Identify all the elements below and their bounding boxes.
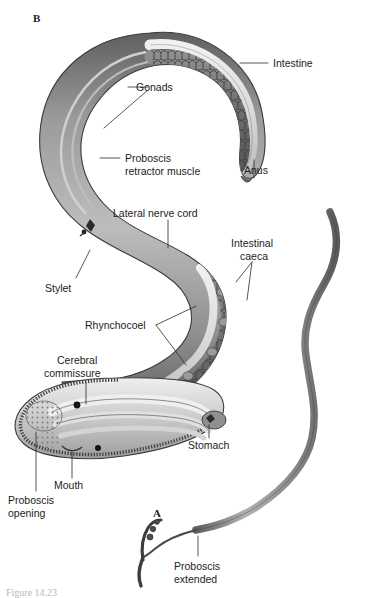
label-intestine: Intestine [273,57,313,69]
label-anus: Anus [244,164,268,176]
label-gonads: Gonads [136,81,173,93]
panel-b-worm-body [15,32,336,586]
label-mouth: Mouth [54,479,83,491]
panel-letter-b: B [33,12,41,24]
label-proboscis-extended-line2: extended [174,573,217,585]
label-lateral-nerve-cord: Lateral nerve cord [113,207,198,219]
figure-caption: Figure 14.23 [6,587,57,598]
label-intestinal-caeca-line2: caeca [240,250,268,262]
figure-container: B A Intestine Gonads Anus Proboscis retr… [0,0,366,598]
leader-intestinal-caeca [236,262,252,300]
label-proboscis-retractor-muscle-line1: Proboscis [125,152,171,164]
label-cerebral-commissure-line2: commissure [44,367,101,379]
leader-gonads [104,87,148,128]
label-stomach: Stomach [188,439,230,451]
label-stylet: Stylet [45,282,71,294]
label-proboscis-retractor-muscle-line2: retractor muscle [125,165,200,177]
panel-letter-a: A [153,507,161,519]
cerebral-ganglion [74,402,81,409]
label-cerebral-commissure-line1: Cerebral [57,354,97,366]
stomach-region [202,411,226,429]
anatomy-illustration: B A Intestine Gonads Anus Proboscis retr… [0,0,366,598]
leader-stylet [76,250,90,278]
label-rhynchocoel: Rhynchocoel [85,319,146,331]
label-intestinal-caeca-line1: Intestinal [231,237,273,249]
label-proboscis-opening-line1: Proboscis [8,494,54,506]
label-proboscis-extended-line1: Proboscis [174,560,220,572]
label-proboscis-opening-line2: opening [8,507,46,519]
